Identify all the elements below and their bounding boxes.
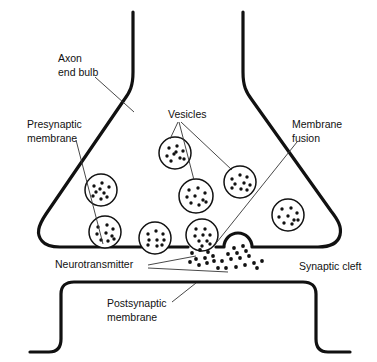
neurotransmitter-molecule — [212, 259, 216, 263]
vesicle-transmitter-dot — [99, 197, 102, 200]
vesicle-transmitter-dot — [181, 149, 184, 152]
leader-neurotransmitter-2 — [148, 268, 228, 272]
vesicle-transmitter-dot — [106, 239, 109, 242]
vesicle-transmitter-dot — [91, 194, 94, 197]
vesicle-right-upper — [224, 166, 256, 198]
vesicle-transmitter-dot — [197, 239, 200, 242]
neurotransmitter-molecule — [243, 263, 247, 267]
neurotransmitter-molecule — [234, 265, 238, 269]
vesicle-center-mid — [179, 179, 213, 213]
label-presynaptic-membrane-line2: membrane — [27, 132, 77, 144]
neurotransmitter-molecule — [255, 266, 259, 270]
neurotransmitter-molecule — [205, 261, 209, 265]
neurotransmitter-molecule — [198, 248, 202, 252]
vesicle-transmitter-dot — [92, 184, 95, 187]
vesicle-transmitter-dot — [201, 198, 204, 201]
vesicle-transmitter-dot — [146, 243, 149, 246]
vesicle-left-mid — [85, 174, 117, 206]
leader-neurotransmitter-1 — [148, 256, 196, 265]
vesicle-transmitter-dot — [94, 190, 97, 193]
neurotransmitter-molecule — [226, 252, 230, 256]
neurotransmitter-molecule — [241, 244, 245, 248]
vesicles-group — [85, 137, 304, 254]
leader-postsynaptic-membrane — [172, 283, 196, 302]
vesicle-transmitter-dot — [245, 188, 248, 191]
neurotransmitter-molecule — [244, 249, 248, 253]
vesicle-transmitter-dot — [203, 191, 206, 194]
vesicle-transmitter-dot — [147, 238, 150, 241]
vesicle-transmitter-dot — [161, 232, 164, 235]
neurotransmitter-molecule — [238, 256, 242, 260]
vesicle-transmitter-dot — [169, 159, 172, 162]
vesicle-transmitter-dot — [289, 206, 292, 209]
neurotransmitter-molecule — [260, 259, 264, 263]
vesicle-transmitter-dot — [205, 239, 208, 242]
label-postsynaptic-membrane-line1: Postsynaptic — [107, 297, 167, 309]
vesicle-transmitter-dot — [187, 188, 190, 191]
vesicle-transmitter-dot — [174, 150, 177, 153]
neurotransmitter-molecule — [252, 261, 256, 265]
vesicle-transmitter-dot — [165, 154, 168, 157]
vesicle-upper-left-mid — [159, 137, 191, 169]
vesicle-transmitter-dot — [160, 243, 163, 246]
vesicle-transmitter-dot — [193, 234, 196, 237]
vesicle-transmitter-dot — [201, 233, 204, 236]
vesicle-transmitter-dot — [248, 183, 251, 186]
vesicle-transmitter-dot — [242, 181, 245, 184]
vesicle-transmitter-dot — [230, 177, 233, 180]
neurotransmitter-molecule — [224, 266, 228, 270]
vesicle-transmitter-dot — [245, 175, 248, 178]
vesicle-transmitter-dot — [282, 221, 285, 224]
vesicle-transmitter-dot — [277, 215, 280, 218]
neurotransmitter-molecule — [206, 250, 210, 254]
vesicle-transmitter-dot — [292, 218, 295, 221]
label-axon-end-bulb-line1: Axon — [58, 52, 82, 64]
vesicle-transmitter-dot — [296, 218, 299, 221]
vesicle-lower-mid — [139, 222, 171, 254]
vesicle-transmitter-dot — [155, 238, 158, 241]
vesicle-transmitter-dot — [105, 195, 108, 198]
vesicle-transmitter-dot — [182, 157, 185, 160]
vesicle-transmitter-dot — [203, 227, 206, 230]
vesicle-transmitter-dot — [239, 187, 242, 190]
neurotransmitter-molecule — [220, 259, 224, 263]
vesicle-transmitter-dot — [208, 233, 211, 236]
vesicle-transmitter-dot — [155, 244, 158, 247]
vesicle-transmitter-dot — [104, 231, 107, 234]
vesicle-transmitter-dot — [280, 207, 283, 210]
neurotransmitter-molecule — [203, 256, 207, 260]
label-synaptic-cleft: Synaptic cleft — [299, 260, 362, 272]
vesicle-transmitter-dot — [105, 223, 108, 226]
vesicle-transmitter-dot — [167, 146, 170, 149]
label-membrane-fusion-line1: Membrane — [292, 118, 342, 130]
vesicle-lower-left — [89, 216, 121, 248]
vesicle-transmitter-dot — [111, 227, 114, 230]
postsynaptic-membrane-outline — [30, 282, 350, 352]
label-axon-end-bulb-line2: end bulb — [58, 66, 98, 78]
vesicle-transmitter-dot — [230, 186, 233, 189]
label-neurotransmitter: Neurotransmitter — [55, 258, 134, 270]
neurotransmitter-molecule — [190, 251, 194, 255]
vesicle-transmitter-dot — [175, 144, 178, 147]
vesicle-transmitter-dot — [178, 156, 181, 159]
vesicle-transmitter-dot — [102, 191, 105, 194]
vesicle-membrane — [139, 222, 171, 254]
vesicle-transmitter-dot — [233, 182, 236, 185]
synapse-diagram: Axon end bulb Presynaptic membrane Vesic… — [0, 0, 377, 362]
vesicle-transmitter-dot — [204, 200, 207, 203]
neurotransmitter-molecule — [194, 257, 198, 261]
label-membrane-fusion-line2: fusion — [292, 132, 320, 144]
label-vesicles: Vesicles — [168, 108, 207, 120]
vesicle-membrane — [224, 166, 256, 198]
vesicle-transmitter-dot — [193, 194, 196, 197]
vesicle-transmitter-dot — [196, 186, 199, 189]
vesicle-transmitter-dot — [185, 195, 188, 198]
vesicle-transmitter-dot — [238, 173, 241, 176]
neurotransmitter-molecule — [188, 260, 192, 264]
postsynaptic-neuron — [30, 282, 350, 352]
vesicle-transmitter-dot — [295, 211, 298, 214]
vesicle-transmitter-dot — [95, 232, 98, 235]
vesicle-transmitter-dot — [194, 227, 197, 230]
vesicle-transmitter-dot — [98, 187, 101, 190]
vesicle-far-right — [272, 199, 304, 231]
